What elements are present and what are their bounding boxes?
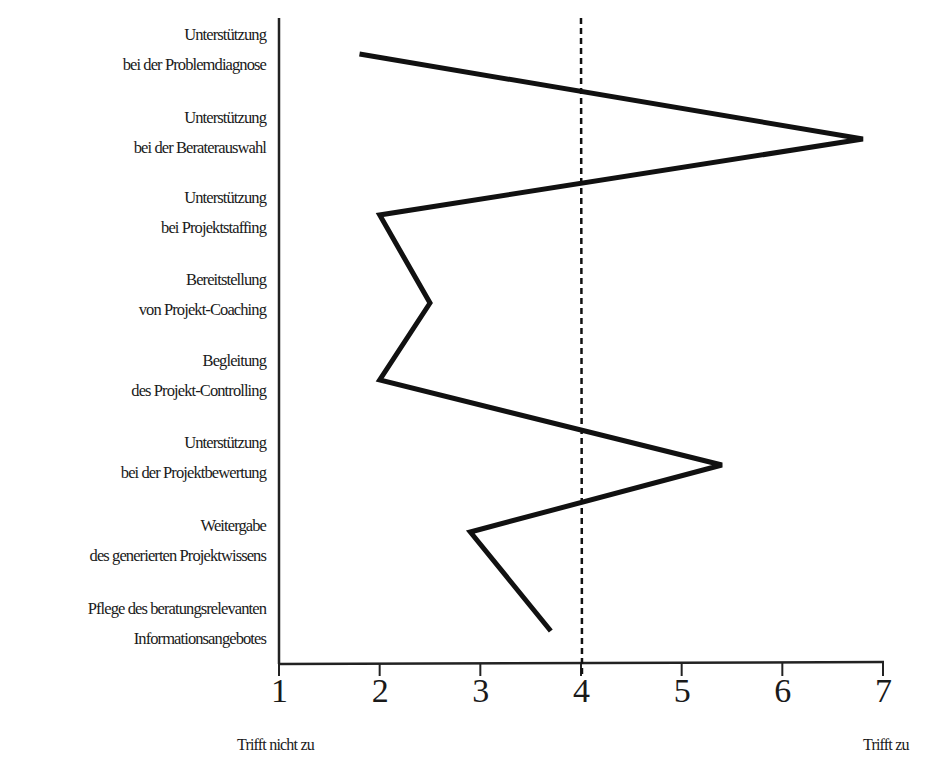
category-label-line1: Pflege des beratungsrelevanten (88, 594, 266, 624)
category-label-line2: bei der Beraterauswahl (134, 133, 266, 163)
x-tick-label: 2 (372, 672, 388, 710)
category-label: Pflege des beratungsrelevantenInformatio… (88, 594, 266, 654)
category-label: Begleitungdes Projekt-Controlling (131, 346, 266, 406)
scale-label-left: Trifft nicht zu (237, 736, 314, 754)
x-tick-label: 7 (875, 672, 891, 710)
reference-line-4 (581, 18, 582, 676)
category-label: Bereitstellungvon Projekt-Coaching (139, 265, 266, 325)
x-tick-label: 3 (472, 672, 488, 710)
scale-label-right: Trifft zu (863, 736, 909, 754)
category-label: Unterstützungbei der Projektbewertung (121, 428, 266, 488)
category-label-line2: Informationsangebotes (88, 624, 266, 654)
category-label-line1: Unterstützung (134, 103, 266, 133)
category-label-line1: Unterstützung (161, 183, 266, 213)
category-label: Weitergabedes generierten Projektwissens (90, 511, 266, 571)
category-label-line2: bei der Problemdiagnose (123, 50, 266, 80)
category-label: Unterstützungbei Projektstaffing (161, 183, 266, 243)
profile-line (360, 54, 863, 631)
category-label-line1: Weitergabe (90, 511, 266, 541)
x-tick-label: 5 (674, 672, 690, 710)
x-tick-label: 4 (573, 672, 589, 710)
category-label-line2: des Projekt-Controlling (131, 376, 266, 406)
category-label-line1: Unterstützung (121, 428, 266, 458)
category-label-line1: Bereitstellung (139, 265, 266, 295)
category-label-line2: des generierten Projektwissens (90, 541, 266, 571)
x-tick-label: 1 (271, 672, 287, 710)
x-tick-label: 6 (774, 672, 790, 710)
category-label-line1: Begleitung (131, 346, 266, 376)
category-label-line2: bei der Projektbewertung (121, 458, 266, 488)
category-label-line2: von Projekt-Coaching (139, 295, 266, 325)
category-label-line1: Unterstützung (123, 20, 266, 50)
category-label-line2: bei Projektstaffing (161, 213, 266, 243)
category-label: Unterstützungbei der Problemdiagnose (123, 20, 266, 80)
category-label: Unterstützungbei der Beraterauswahl (134, 103, 266, 163)
